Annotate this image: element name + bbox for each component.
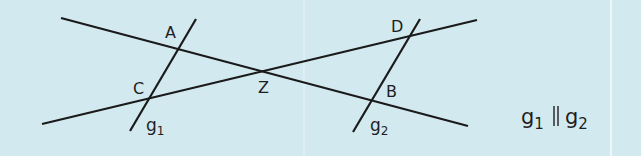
line-c-z-d [42, 20, 477, 124]
point-label-b: B [386, 82, 397, 101]
parallel-line-g2 [353, 19, 420, 132]
point-label-z: Z [258, 78, 269, 97]
parallel-line-g1 [130, 19, 196, 131]
line-a-z-b [61, 18, 468, 126]
parallel-caption: g1 [521, 105, 544, 133]
line-label-g2: g2 [370, 115, 388, 138]
parallel-caption-right: g2 [565, 105, 588, 133]
diagram-canvas: A C Z D B g1 g2 g1 g2 [0, 0, 641, 156]
intercept-theorem-diagram: A C Z D B g1 g2 g1 g2 [0, 0, 641, 156]
line-label-g1: g1 [146, 115, 164, 138]
point-label-d: D [391, 17, 403, 36]
point-label-a: A [165, 23, 176, 42]
point-label-c: C [133, 79, 144, 98]
